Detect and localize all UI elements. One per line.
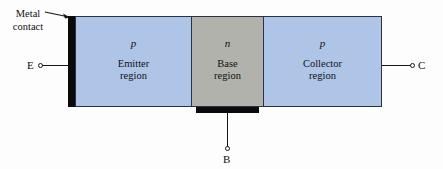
base-region: n Base region (192, 17, 264, 106)
collector-terminal-label: C (418, 60, 426, 71)
collector-region: p Collector region (264, 17, 381, 106)
emitter-carrier-label: p (131, 38, 137, 49)
base-terminal-node (225, 146, 230, 151)
base-terminal-label: B (223, 154, 231, 165)
emitter-region: p Emitter region (76, 17, 192, 106)
collector-terminal-node (410, 63, 415, 68)
emitter-lead-wire (42, 65, 69, 66)
emitter-region-label: Emitter region (118, 58, 150, 82)
base-carrier-label: n (225, 38, 231, 49)
transistor-diagram: Metal contact p Emitter region n Base re… (0, 0, 443, 169)
base-lead-wire (227, 112, 228, 148)
emitter-terminal-label: E (27, 60, 34, 71)
base-region-label: Base region (214, 58, 241, 82)
semiconductor-body: p Emitter region n Base region p Collect… (75, 16, 382, 107)
collector-region-label: Collector region (303, 58, 342, 82)
collector-lead-wire (382, 65, 411, 66)
collector-carrier-label: p (320, 38, 326, 49)
metal-contact-annotation-label: Metal contact (6, 7, 50, 33)
emitter-terminal-node (38, 63, 43, 68)
